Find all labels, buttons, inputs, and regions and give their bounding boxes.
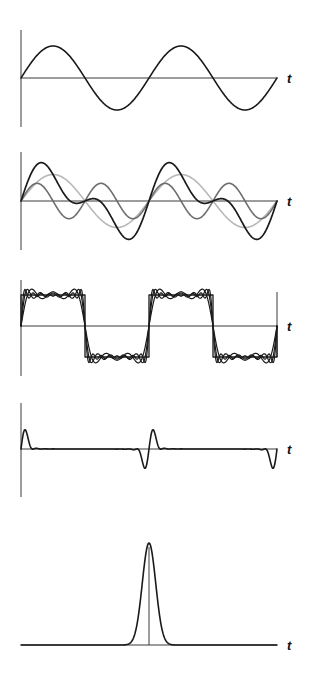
t-axis-label: t	[287, 442, 292, 457]
panel-spike-train: t	[21, 403, 292, 497]
fourier-figure: t t t t t	[0, 0, 309, 679]
t-axis-label: t	[287, 71, 292, 86]
panel-square-wave: t	[21, 280, 292, 376]
t-axis-label: t	[287, 638, 292, 653]
panel-harmonic-sum: t	[21, 152, 292, 250]
t-axis-label: t	[287, 319, 292, 334]
panel-sine: t	[21, 30, 292, 127]
panel-gaussian: t	[21, 543, 292, 653]
t-axis-label: t	[287, 194, 292, 209]
spike-curve	[21, 430, 277, 469]
